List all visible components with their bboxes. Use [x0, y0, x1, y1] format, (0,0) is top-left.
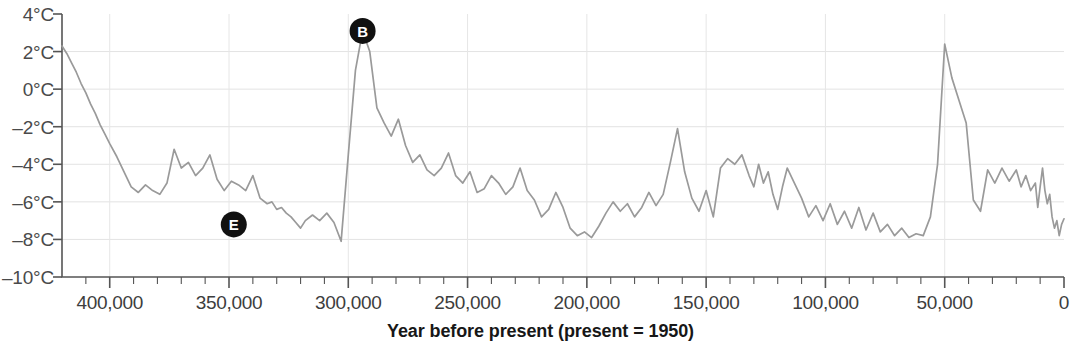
y-axis-tick-label: 0°C [23, 80, 54, 99]
y-axis-tick-label: –2°C [12, 118, 54, 137]
annotation-marker-b: B [343, 24, 383, 39]
gridlines [62, 14, 1064, 277]
annotation-markers [221, 18, 376, 237]
y-axis-tick-label: –4°C [12, 155, 54, 174]
y-axis-tick-label: 2°C [23, 43, 54, 62]
x-minor-ticks [86, 277, 1064, 288]
annotation-marker-e: E [214, 217, 254, 232]
y-axis-tick-label: –8°C [12, 230, 54, 249]
axis-frame [62, 14, 1064, 277]
temperature-series-line [62, 31, 1064, 241]
y-axis-ticks [53, 14, 62, 277]
x-axis-tick-label: 0 [974, 293, 1081, 312]
temperature-line-chart: 4°C2°C0°C–2°C–4°C–6°C–8°C–10°C 400,00035… [0, 0, 1081, 348]
y-axis-tick-label: –6°C [12, 193, 54, 212]
y-axis-tick-label: 4°C [23, 5, 54, 24]
y-axis-tick-label: –10°C [2, 268, 54, 287]
x-axis-title: Year before present (present = 1950) [0, 322, 1081, 340]
